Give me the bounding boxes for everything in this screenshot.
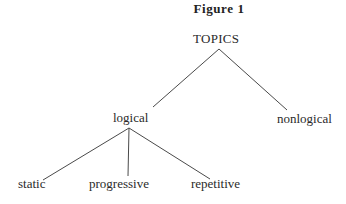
edge-topics-nonlogical: [219, 49, 287, 110]
node-topics: TOPICS: [193, 32, 239, 46]
node-nonlogical: nonlogical: [277, 112, 332, 126]
node-static: static: [18, 177, 45, 191]
node-repetitive: repetitive: [191, 177, 240, 191]
edge-logical-progressive: [128, 128, 129, 176]
node-progressive: progressive: [89, 177, 149, 191]
edge-topics-logical: [153, 49, 219, 107]
node-logical: logical: [113, 111, 148, 125]
edge-logical-static: [43, 128, 129, 180]
tree-edges: [0, 0, 346, 204]
edge-logical-repetitive: [129, 128, 210, 179]
